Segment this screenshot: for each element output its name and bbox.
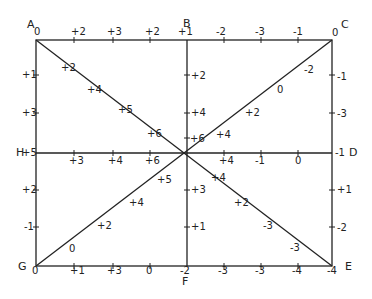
hd-label-0: +3 — [69, 156, 84, 166]
hd-label-3: +4 — [219, 156, 234, 166]
cg-label-5: +4 — [129, 198, 144, 208]
right-label-0: -1 — [337, 72, 347, 82]
cg-label-4: +5 — [157, 175, 172, 185]
top-label-2: +3 — [107, 27, 122, 37]
left-label-4: -1 — [24, 222, 34, 232]
top-label-7: -1 — [293, 27, 303, 37]
top-label-3: +2 — [145, 27, 160, 37]
corner-G: G — [18, 262, 27, 272]
corner-C: C — [341, 20, 349, 30]
hd-label-1: +4 — [108, 156, 123, 166]
bottom-label-7: -4 — [292, 266, 302, 276]
cg-label-2: +2 — [245, 108, 260, 118]
cg-label-6: +2 — [97, 221, 112, 231]
cg-label-0: -2 — [304, 65, 314, 75]
bf-label-0: +2 — [191, 71, 206, 81]
bottom-label-4: -2 — [180, 266, 190, 276]
hd-label-5: 0 — [295, 156, 301, 166]
hd-label-2: +6 — [145, 156, 160, 166]
ae-label-0: +2 — [61, 63, 76, 73]
bottom-label-5: -3 — [218, 266, 228, 276]
ae-label-7: -3 — [290, 243, 300, 253]
bf-label-3: +3 — [191, 185, 206, 195]
right-label-4: -2 — [337, 223, 347, 233]
right-label-1: -3 — [337, 109, 347, 119]
top-label-6: -3 — [255, 27, 265, 37]
top-label-0: 0 — [34, 27, 40, 37]
ae-label-3: +6 — [147, 129, 162, 139]
right-label-3: +1 — [337, 185, 352, 195]
hd-label-4: -1 — [255, 156, 265, 166]
top-label-5: -2 — [216, 27, 226, 37]
corner-E: E — [345, 262, 352, 272]
bf-label-4: +1 — [191, 222, 206, 232]
bottom-label-2: +3 — [107, 266, 122, 276]
bottom-label-8: -4 — [327, 266, 337, 276]
top-label-1: +2 — [71, 27, 86, 37]
ae-label-1: +4 — [87, 85, 102, 95]
ae-label-2: +5 — [118, 105, 133, 115]
cg-label-3: +4 — [216, 130, 231, 140]
top-label-8: 0 — [332, 28, 338, 38]
corner-D: D — [349, 148, 357, 158]
left-label-0: +1 — [22, 70, 37, 80]
bottom-label-0: 0 — [32, 266, 38, 276]
ae-label-6: -3 — [263, 221, 273, 231]
bf-label-2: +6 — [190, 134, 205, 144]
bf-label-1: +4 — [191, 108, 206, 118]
diagram-lines — [0, 0, 372, 299]
cg-label-7: 0 — [69, 244, 75, 254]
corner-F: F — [182, 277, 188, 287]
left-label-1: +3 — [22, 108, 37, 118]
bottom-label-1: +1 — [70, 266, 85, 276]
ae-label-4: +4 — [211, 173, 226, 183]
bottom-label-6: -3 — [255, 266, 265, 276]
right-label-2: -1 — [335, 148, 345, 158]
bottom-label-3: 0 — [146, 266, 152, 276]
cg-label-1: 0 — [277, 85, 283, 95]
left-label-2: +5 — [22, 148, 37, 158]
top-label-4: +1 — [178, 27, 193, 37]
left-label-3: +2 — [22, 185, 37, 195]
ae-label-5: +2 — [234, 198, 249, 208]
